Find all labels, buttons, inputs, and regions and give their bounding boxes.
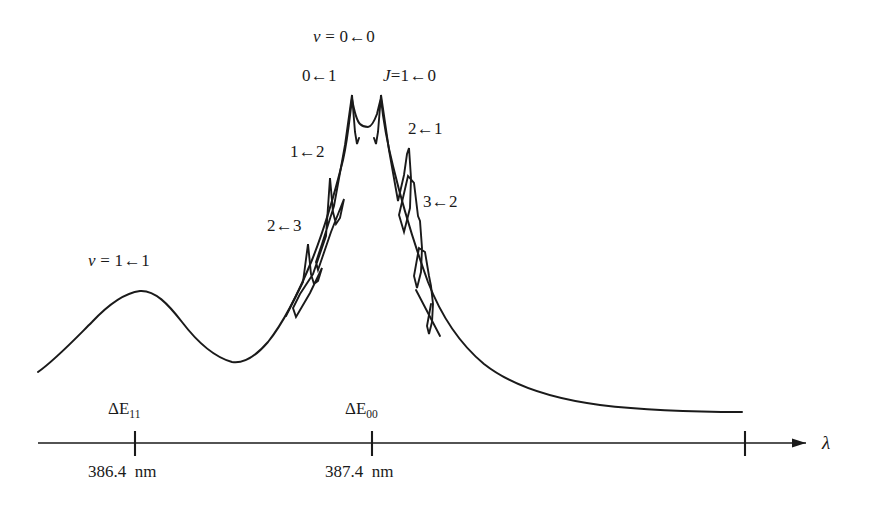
axis-tick-label-387: 387.4 nm [325, 462, 393, 482]
annotation-00-lower: 0 [366, 27, 375, 46]
axis-symbol-lambda: λ [822, 432, 830, 454]
annotation-rotational-line-J1-0: J=1←0 [383, 67, 436, 84]
fine-structure-left [286, 95, 359, 317]
tick-value-386: 386.4 [88, 462, 126, 481]
axis-energy-label-delta-E-00: ΔE00 [345, 399, 378, 420]
spectrum-figure: v = 0←0 0←1 J=1←0 2←1 1←2 3←2 2←3 v = 1←… [0, 0, 870, 508]
delta-E-00-sub: 00 [366, 408, 378, 420]
tick-value-387: 387.4 [325, 462, 363, 481]
left-arrow-icon: ← [123, 251, 141, 270]
annotation-11-symbol: v [88, 251, 96, 270]
annotation-vibrational-band-00: v = 0←0 [313, 28, 375, 45]
delta-E-11-sub: 11 [129, 408, 140, 420]
left-arrow-icon: ← [409, 66, 427, 85]
tick-unit-387: nm [372, 462, 394, 481]
annotation-rotational-line-0-1: 0←1 [302, 67, 337, 84]
quantum-number-J-symbol: J [383, 66, 391, 85]
annotation-rotational-line-2-3: 2←3 [267, 217, 302, 234]
annotation-rotational-line-3-2: 3←2 [423, 193, 458, 210]
annotation-11-upper: 1 [114, 251, 123, 270]
annotation-J1-0-rest: =1 [391, 66, 410, 85]
axis-tick-label-386: 386.4 nm [88, 462, 156, 482]
axis-energy-label-delta-E-11: ΔE11 [108, 399, 140, 420]
annotation-11-lower: 1 [141, 251, 150, 270]
annotation-rotational-line-2-1: 2←1 [408, 120, 443, 137]
annotation-rotational-line-1-2: 1←2 [290, 143, 325, 160]
delta-E-11-main: ΔE [108, 399, 129, 418]
annotation-11-equals: = [96, 251, 115, 270]
tick-unit-386: nm [135, 462, 157, 481]
annotation-00-symbol: v [313, 27, 321, 46]
left-arrow-icon: ← [348, 27, 366, 46]
annotation-vibrational-band-11: v = 1←1 [88, 252, 150, 269]
delta-E-00-main: ΔE [345, 399, 366, 418]
axis-arrowhead [792, 439, 806, 448]
annotation-00-upper: 0 [339, 27, 348, 46]
annotation-J1-0-lower: 0 [427, 66, 436, 85]
annotation-00-equals: = [321, 27, 340, 46]
